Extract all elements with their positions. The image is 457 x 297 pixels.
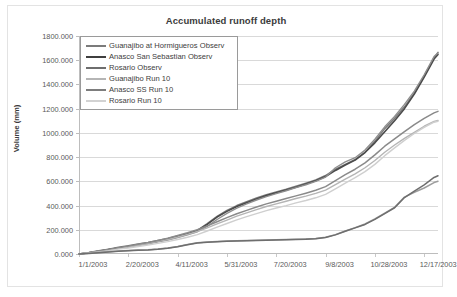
y-tick-label: 400.000 bbox=[13, 201, 73, 210]
x-tick-mark bbox=[128, 254, 129, 257]
legend-item[interactable]: Anasco San Sebastian Observ bbox=[86, 51, 233, 62]
x-tick-mark bbox=[178, 254, 179, 257]
x-tick-mark bbox=[276, 254, 277, 257]
legend-swatch-icon bbox=[86, 100, 106, 102]
legend-swatch-icon bbox=[86, 45, 106, 47]
legend-item-label: Guanajibo at Hormigueros Observ bbox=[109, 41, 224, 51]
y-tick-label: 200.000 bbox=[13, 225, 73, 234]
y-tick-label: 1000.000 bbox=[13, 128, 73, 137]
y-tick-label: 0.000 bbox=[13, 250, 73, 259]
legend-swatch-icon bbox=[86, 89, 106, 91]
series-line bbox=[79, 121, 438, 254]
x-tick-label: 9/8/2003 bbox=[325, 260, 354, 269]
x-tick-mark bbox=[424, 254, 425, 257]
x-tick-mark bbox=[227, 254, 228, 257]
legend-item[interactable]: Guanajibo Run 10 bbox=[86, 73, 233, 84]
legend-swatch-icon bbox=[86, 67, 106, 69]
legend-item-label: Anasco San Sebastian Observ bbox=[109, 52, 212, 62]
x-tick-label: 1/1/2003 bbox=[79, 260, 108, 269]
legend-item[interactable]: Guanajibo at Hormigueros Observ bbox=[86, 40, 233, 51]
y-tick-label: 600.000 bbox=[13, 177, 73, 186]
x-tick-label: 12/17/2003 bbox=[420, 260, 457, 269]
legend-swatch-icon bbox=[86, 56, 106, 58]
chart-legend: Guanajibo at Hormigueros ObservAnasco Sa… bbox=[80, 36, 238, 110]
legend-swatch-icon bbox=[86, 78, 106, 80]
legend-item-label: Guanajibo Run 10 bbox=[109, 74, 170, 84]
x-tick-label: 5/31/2003 bbox=[224, 260, 257, 269]
series-line bbox=[79, 121, 438, 254]
series-line bbox=[79, 181, 438, 254]
y-tick-label: 800.000 bbox=[13, 153, 73, 162]
legend-item[interactable]: Rosario Observ bbox=[86, 62, 233, 73]
chart-title: Accumulated runoff depth bbox=[8, 15, 444, 26]
x-tick-label: 10/28/2003 bbox=[370, 260, 407, 269]
legend-item-label: Rosario Run 10 bbox=[109, 96, 162, 106]
legend-item[interactable]: Rosario Run 10 bbox=[86, 95, 233, 106]
y-tick-label: 1400.000 bbox=[13, 80, 73, 89]
y-tick-label: 1600.000 bbox=[13, 56, 73, 65]
series-line bbox=[79, 176, 438, 254]
chart-frame: Accumulated runoff depth Volume (mm) 0.0… bbox=[7, 5, 443, 287]
y-tick-label: 1200.000 bbox=[13, 104, 73, 113]
y-tick-label: 1800.000 bbox=[13, 32, 73, 41]
x-tick-label: 4/11/2003 bbox=[175, 260, 207, 269]
legend-item-label: Anasco SS Run 10 bbox=[109, 85, 173, 95]
x-tick-label: 2/20/2003 bbox=[126, 260, 159, 269]
x-tick-label: 7/20/2003 bbox=[274, 260, 307, 269]
legend-item[interactable]: Anasco SS Run 10 bbox=[86, 84, 233, 95]
legend-item-label: Rosario Observ bbox=[109, 63, 162, 73]
x-tick-mark bbox=[326, 254, 327, 257]
x-tick-mark bbox=[375, 254, 376, 257]
